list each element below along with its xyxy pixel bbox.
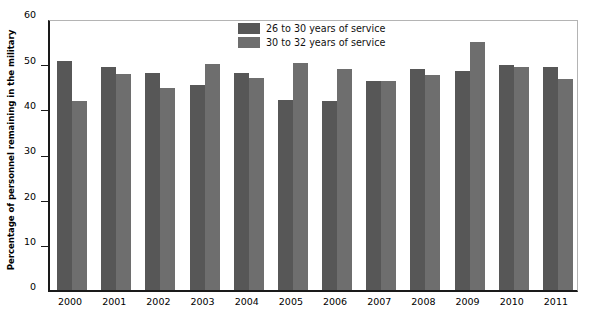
- x-axis-label: 2011: [534, 296, 578, 307]
- y-axis-tick-label: 20: [0, 192, 36, 202]
- bar: [499, 65, 514, 290]
- bar: [558, 79, 573, 290]
- bar: [381, 81, 396, 290]
- y-axis-tick-mark: [41, 110, 48, 111]
- y-axis-tick-label: 30: [0, 147, 36, 157]
- bar-group: [359, 18, 403, 290]
- bar: [514, 67, 529, 290]
- bar: [337, 69, 352, 290]
- y-axis-tick-label: 0: [0, 283, 36, 293]
- y-axis-tick-label: 50: [0, 56, 36, 66]
- y-axis-tick-mark: [41, 65, 48, 66]
- chart-legend: 26 to 30 years of service30 to 32 years …: [238, 23, 385, 48]
- bar: [145, 73, 160, 290]
- y-axis-tick-label: 40: [0, 101, 36, 111]
- legend-label: 30 to 32 years of service: [266, 38, 385, 48]
- bar-group: [536, 18, 580, 290]
- bar: [160, 88, 175, 290]
- bar: [249, 78, 264, 290]
- x-axis-label: 2006: [313, 296, 357, 307]
- x-axis-label: 2005: [269, 296, 313, 307]
- legend-swatch-light: [238, 37, 260, 48]
- bar-group: [271, 18, 315, 290]
- plot-area: [48, 20, 578, 292]
- bar: [293, 63, 308, 290]
- bar-group: [403, 18, 447, 290]
- y-axis-tick-label: 10: [0, 237, 36, 247]
- x-axis-label: 2003: [181, 296, 225, 307]
- x-axis-label: 2007: [357, 296, 401, 307]
- bar-group: [448, 18, 492, 290]
- y-axis-tick-label: 60: [0, 11, 36, 21]
- bar-group: [183, 18, 227, 290]
- bar-group: [315, 18, 359, 290]
- bar: [101, 67, 116, 290]
- legend-label: 26 to 30 years of service: [266, 24, 385, 34]
- bar: [425, 75, 440, 290]
- bar-chart: Percentage of personnel remaining in the…: [0, 0, 591, 319]
- bar: [322, 101, 337, 290]
- y-axis-tick-mark: [41, 201, 48, 202]
- x-axis-label: 2008: [401, 296, 445, 307]
- bar: [234, 73, 249, 290]
- bar: [278, 100, 293, 290]
- legend-item: 30 to 32 years of service: [238, 37, 385, 48]
- x-axis-label: 2010: [490, 296, 534, 307]
- y-axis-tick-mark: [41, 246, 48, 247]
- x-axis-label: 2001: [92, 296, 136, 307]
- bar: [205, 64, 220, 290]
- bar: [455, 71, 470, 290]
- bar: [57, 61, 72, 290]
- legend-item: 26 to 30 years of service: [238, 23, 385, 34]
- bar-group: [492, 18, 536, 290]
- x-axis-label: 2002: [136, 296, 180, 307]
- bar-group: [227, 18, 271, 290]
- x-axis-label: 2004: [225, 296, 269, 307]
- bar-group: [94, 18, 138, 290]
- bar: [72, 101, 87, 290]
- bar-group: [50, 18, 94, 290]
- y-axis-tick-mark: [41, 156, 48, 157]
- bar: [366, 81, 381, 290]
- bar-group: [138, 18, 182, 290]
- x-axis-label: 2000: [48, 296, 92, 307]
- bar: [410, 69, 425, 290]
- bar: [543, 67, 558, 290]
- bar: [470, 42, 485, 290]
- legend-swatch-dark: [238, 23, 260, 34]
- bar: [116, 74, 131, 290]
- bar: [190, 85, 205, 290]
- x-axis-label: 2009: [446, 296, 490, 307]
